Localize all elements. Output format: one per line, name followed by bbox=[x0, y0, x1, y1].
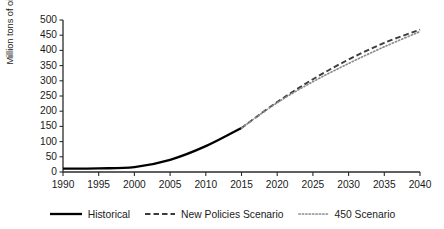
series-line-new-policies-scenario bbox=[242, 30, 421, 128]
legend-label: Historical bbox=[88, 209, 130, 220]
chart-legend: HistoricalNew Policies Scenario450 Scena… bbox=[0, 205, 444, 223]
series-line-450-scenario bbox=[242, 32, 421, 128]
legend-label: New Policies Scenario bbox=[181, 209, 283, 220]
legend-label: 450 Scenario bbox=[335, 209, 396, 220]
plot-area bbox=[0, 0, 444, 229]
legend-swatch-dotted bbox=[298, 209, 330, 219]
legend-swatch-solid bbox=[49, 209, 83, 219]
legend-entry-450-scenario[interactable]: 450 Scenario bbox=[298, 209, 396, 220]
axes bbox=[60, 20, 421, 176]
data-series bbox=[63, 30, 420, 169]
series-line-historical bbox=[63, 128, 242, 169]
legend-entry-historical[interactable]: Historical bbox=[49, 209, 130, 220]
legend-swatch-dashed bbox=[144, 209, 176, 219]
legend-entry-new-policies-scenario[interactable]: New Policies Scenario bbox=[144, 209, 283, 220]
chart-figure: Million tons of oil equivalent 050100150… bbox=[0, 0, 444, 229]
